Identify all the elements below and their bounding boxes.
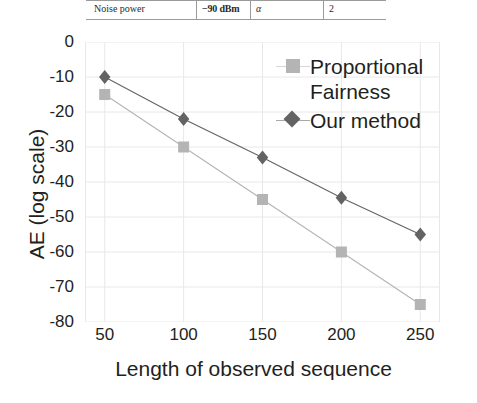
y-tick-label: 0 — [65, 32, 74, 52]
data-point-marker — [99, 89, 110, 100]
table-top-rule — [86, 0, 386, 1]
table-cell-noise-power-label: Noise power — [94, 2, 145, 16]
x-axis-tick-labels: 50100150200250 — [85, 325, 440, 349]
y-tick-label: -20 — [49, 102, 74, 122]
data-point-marker — [415, 299, 426, 310]
data-point-marker — [178, 142, 189, 153]
data-point-marker — [257, 194, 268, 205]
table-divider-2 — [250, 0, 251, 20]
y-tick-label: -70 — [49, 277, 74, 297]
y-tick-label: -50 — [49, 207, 74, 227]
table-cell-noise-power-value: −90 dBm — [202, 2, 239, 16]
data-point-marker — [415, 228, 426, 242]
x-tick-label: 50 — [95, 325, 114, 345]
table-cell-alpha-symbol: α — [256, 2, 261, 16]
y-tick-label: -60 — [49, 242, 74, 262]
legend-label-proportional-fairness: Proportional Fairness — [310, 54, 423, 104]
y-tick-label: -30 — [49, 137, 74, 157]
chart-legend: Proportional Fairness Our method — [276, 54, 466, 138]
y-tick-label: -10 — [49, 67, 74, 87]
data-point-marker — [178, 112, 189, 126]
table-divider-3 — [323, 0, 324, 20]
square-marker-icon — [276, 54, 310, 80]
x-axis-title: Length of observed sequence — [0, 357, 477, 381]
x-tick-label: 150 — [248, 325, 276, 345]
x-tick-label: 200 — [327, 325, 355, 345]
parameter-table-fragment: Noise power −90 dBm α 2 — [86, 0, 386, 20]
legend-label-our-method: Our method — [310, 108, 421, 133]
y-tick-label: -40 — [49, 172, 74, 192]
x-tick-label: 100 — [169, 325, 197, 345]
data-point-marker — [336, 247, 347, 258]
data-point-marker — [257, 151, 268, 165]
diamond-marker-icon — [276, 108, 310, 134]
y-axis-title: AE (log scale) — [25, 84, 49, 304]
data-point-marker — [99, 70, 110, 84]
y-tick-label: -80 — [49, 312, 74, 332]
data-point-marker — [336, 191, 347, 205]
legend-item-proportional-fairness: Proportional Fairness — [276, 54, 466, 104]
legend-item-our-method: Our method — [276, 108, 466, 134]
x-tick-label: 250 — [406, 325, 434, 345]
table-divider-1 — [196, 0, 197, 20]
table-cell-alpha-value: 2 — [329, 2, 334, 16]
